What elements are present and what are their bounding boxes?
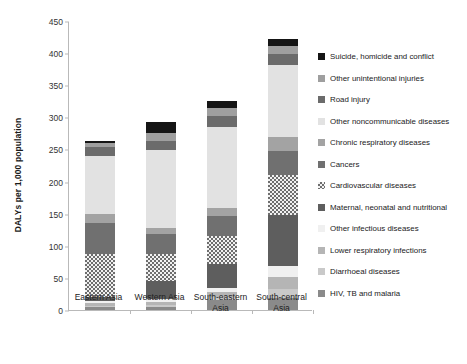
stacked-bar-chart: DALYs per 1,000 population 0501001502002…	[0, 0, 467, 364]
bar-segment[interactable]	[85, 156, 115, 214]
y-tick-label-300: 300	[23, 113, 69, 123]
bar-segment[interactable]	[207, 127, 237, 208]
bar-segment[interactable]	[85, 214, 115, 223]
x-axis-label: Eastern Asia	[68, 292, 129, 303]
bar-segment[interactable]	[268, 65, 298, 136]
bar-segment[interactable]	[268, 151, 298, 175]
y-tick-label-200: 200	[23, 178, 69, 188]
legend-item-label: Chronic respiratory diseases	[330, 138, 430, 147]
x-axis-label: South-eastern Asia	[190, 292, 251, 314]
bar-slot	[130, 22, 191, 310]
legend-item[interactable]: Lower respiratory infections	[318, 240, 464, 262]
bar-segment[interactable]	[207, 116, 237, 127]
bar-segment[interactable]	[207, 264, 237, 288]
bar-segment[interactable]	[268, 137, 298, 152]
stacked-bar[interactable]	[146, 122, 176, 310]
legend-item[interactable]: HIV, TB and malaria	[318, 283, 464, 305]
legend-item-label: Maternal, neonatal and nutritional	[330, 203, 447, 212]
bar-segment[interactable]	[268, 54, 298, 66]
bar-segment[interactable]	[146, 150, 176, 228]
bar-segment[interactable]	[207, 108, 237, 116]
x-axis-label: South-central Asia	[251, 292, 312, 314]
y-tick-label-150: 150	[23, 210, 69, 220]
y-tick-label-350: 350	[23, 81, 69, 91]
bar-slot	[252, 22, 313, 310]
y-tick-label-250: 250	[23, 145, 69, 155]
legend-swatch-icon	[318, 139, 325, 146]
legend-item-label: Other noncommunicable diseases	[330, 117, 449, 126]
legend-swatch-icon	[318, 182, 325, 189]
y-tick-label-400: 400	[23, 49, 69, 59]
legend-item[interactable]: Other unintentional injuries	[318, 68, 464, 90]
legend-swatch-icon	[318, 204, 325, 211]
legend-item-label: Diarrhoeal diseases	[330, 267, 400, 276]
legend-item[interactable]: Other infectious diseases	[318, 218, 464, 240]
legend-swatch-icon	[318, 118, 325, 125]
legend-item[interactable]: Other noncommunicable diseases	[318, 111, 464, 133]
bar-slot	[191, 22, 252, 310]
bar-segment[interactable]	[268, 266, 298, 276]
legend-swatch-icon	[318, 290, 325, 297]
bar-segment[interactable]	[207, 216, 237, 235]
legend-swatch-icon	[318, 53, 325, 60]
bar-segment[interactable]	[146, 254, 176, 282]
bar-segment[interactable]	[268, 277, 298, 290]
bar-segment[interactable]	[146, 234, 176, 253]
legend-swatch-icon	[318, 247, 325, 254]
x-tick-mark	[130, 310, 131, 314]
legend-item-label: Other infectious diseases	[330, 224, 419, 233]
stacked-bar[interactable]	[85, 141, 115, 310]
legend-swatch-icon	[318, 268, 325, 275]
y-tick-label-100: 100	[23, 242, 69, 252]
bar-segment[interactable]	[146, 122, 176, 134]
bar-segment[interactable]	[85, 307, 115, 310]
bar-segment[interactable]	[146, 307, 176, 310]
y-tick-label-50: 50	[23, 274, 69, 284]
y-tick-mark-0	[65, 311, 69, 312]
y-tick-label-450: 450	[23, 17, 69, 27]
bar-segment[interactable]	[207, 208, 237, 216]
legend-item-label: Cardiovascular diseases	[330, 181, 416, 190]
legend-item-label: HIV, TB and malaria	[330, 289, 400, 298]
bar-segment[interactable]	[146, 141, 176, 150]
bar-segment[interactable]	[85, 147, 115, 156]
stacked-bar[interactable]	[207, 101, 237, 310]
x-axis-label: Western Asia	[129, 292, 190, 303]
legend-item[interactable]: Maternal, neonatal and nutritional	[318, 197, 464, 219]
legend-item[interactable]: Road injury	[318, 89, 464, 111]
bar-segment[interactable]	[268, 215, 298, 266]
y-axis-title-text: DALYs per 1,000 population	[13, 95, 23, 255]
legend-item[interactable]: Cardiovascular diseases	[318, 175, 464, 197]
bar-slot	[69, 22, 130, 310]
plot-area: 050100150200250300350400450	[68, 22, 312, 311]
bar-segment[interactable]	[146, 133, 176, 140]
bar-segment[interactable]	[268, 46, 298, 54]
x-tick-mark	[313, 310, 314, 314]
legend-item-label: Cancers	[330, 160, 359, 169]
y-axis-title: DALYs per 1,000 population	[13, 0, 23, 95]
stacked-bar[interactable]	[268, 39, 298, 310]
legend-swatch-icon	[318, 225, 325, 232]
legend-item[interactable]: Chronic respiratory diseases	[318, 132, 464, 154]
legend-item-label: Road injury	[330, 95, 370, 104]
bar-group	[69, 22, 312, 310]
legend-swatch-icon	[318, 161, 325, 168]
legend-item-label: Suicide, homicide and conflict	[330, 52, 434, 61]
legend-item[interactable]: Suicide, homicide and conflict	[318, 46, 464, 68]
bar-segment[interactable]	[85, 223, 115, 254]
bar-segment[interactable]	[207, 101, 237, 108]
legend-item[interactable]: Cancers	[318, 154, 464, 176]
bar-segment[interactable]	[207, 236, 237, 264]
legend-item[interactable]: Diarrhoeal diseases	[318, 261, 464, 283]
legend-item-label: Lower respiratory infections	[330, 246, 426, 255]
legend-swatch-icon	[318, 96, 325, 103]
bar-segment[interactable]	[268, 175, 298, 215]
bar-segment[interactable]	[85, 254, 115, 298]
chart-legend: Suicide, homicide and conflictOther unin…	[318, 46, 464, 304]
y-tick-label-0: 0	[23, 306, 69, 316]
legend-swatch-icon	[318, 75, 325, 82]
legend-item-label: Other unintentional injuries	[330, 74, 424, 83]
bar-segment[interactable]	[268, 39, 298, 46]
